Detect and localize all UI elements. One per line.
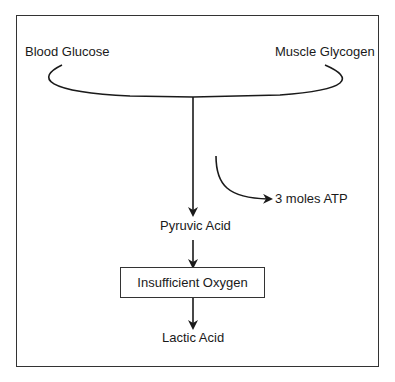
arrow-to-atp	[216, 156, 268, 199]
label-muscle-glycogen: Muscle Glycogen	[275, 44, 375, 59]
label-pyruvic-acid: Pyruvic Acid	[160, 218, 231, 233]
box-insufficient-oxygen: Insufficient Oxygen	[120, 267, 265, 298]
label-insufficient-oxygen: Insufficient Oxygen	[137, 275, 247, 290]
label-lactic-acid: Lactic Acid	[162, 330, 224, 345]
converging-curve	[49, 65, 343, 97]
label-atp: 3 moles ATP	[275, 191, 348, 206]
label-blood-glucose: Blood Glucose	[25, 44, 110, 59]
